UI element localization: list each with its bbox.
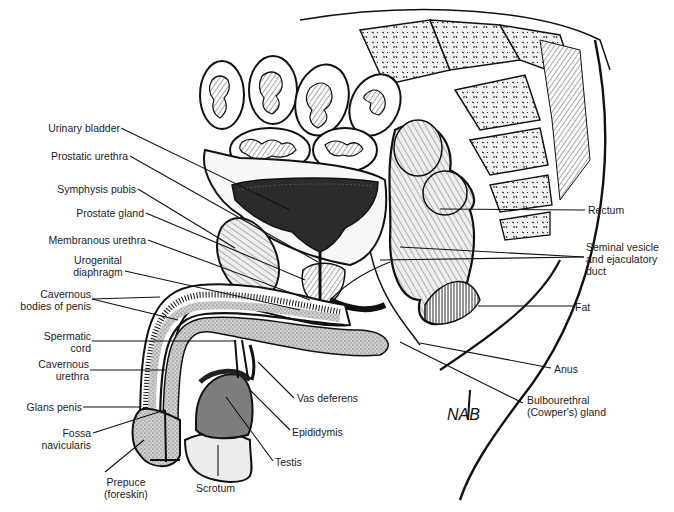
label-glans-penis: Glans penis [0,401,82,413]
label-prepuce: Prepuce (foreskin) [96,476,156,500]
label-line: Seminal vesicle [586,241,659,253]
label-symphysis-pubis: Symphysis pubis [0,183,136,195]
label-line: and ejaculatory [586,253,659,265]
label-spermatic-cord: Spermatic cord [0,330,91,354]
label-vas-deferens: Vas deferens [297,392,358,404]
label-line: Fossa [0,427,91,439]
label-seminal-vesicle: Seminal vesicle and ejaculatory duct [586,241,659,277]
label-line: bodies of penis [0,300,91,312]
label-line: diaphragm [68,266,128,278]
label-anus: Anus [554,363,578,375]
label-line: (foreskin) [96,488,156,500]
label-fat: Fat [575,301,590,313]
penis [133,284,389,466]
label-membranous-urethra: Membranous urethra [0,234,146,246]
label-line: Cavernous [0,288,91,300]
rectum [370,120,480,345]
label-line: Bulbourethral [527,394,606,406]
label-line: (Cowper's) gland [527,406,606,418]
intestines [200,56,410,172]
label-rectum: Rectum [588,204,624,216]
label-prostatic-urethra: Prostatic urethra [0,150,128,162]
label-line: cord [0,342,91,354]
label-line: Prepuce [96,476,156,488]
label-urinary-bladder: Urinary bladder [0,122,120,134]
label-line: navicularis [0,439,91,451]
label-urogenital-diaphragm: Urogenital diaphragm [68,254,128,278]
label-cavernous-bodies: Cavernous bodies of penis [0,288,91,312]
label-line: Cavernous [0,358,89,370]
artist-signature: NAB [447,406,480,423]
label-prostate-gland: Prostate gland [0,207,144,219]
label-line: duct [586,265,659,277]
vas-deferens-shape [250,345,254,380]
anatomy-diagram: NAB Urinary bladder Prostatic urethra Sy… [0,0,674,512]
testis-shape [196,374,253,438]
label-epididymis: Epididymis [292,426,343,438]
label-line: Spermatic [0,330,91,342]
label-line: Urogenital [68,254,128,266]
label-line: urethra [0,370,89,382]
label-cavernous-urethra: Cavernous urethra [0,358,89,382]
label-testis: Testis [275,456,302,468]
scrotum-group [185,340,254,482]
label-fossa-navicularis: Fossa navicularis [0,427,91,451]
label-scrotum: Scrotum [196,482,235,494]
label-bulbourethral-gland: Bulbourethral (Cowper's) gland [527,394,606,418]
